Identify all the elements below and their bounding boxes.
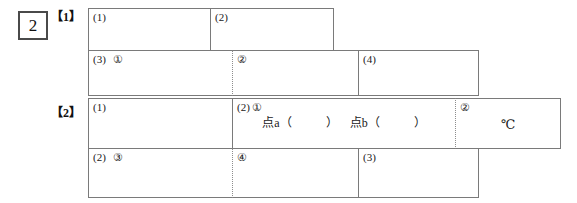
answer-cell-3-3-subnumber: ② [460,101,470,113]
answer-sheet: 2 【1】 【2】 (1) (2) (3)① ② (4) (1) (2)① 点a… [0,0,577,203]
answer-cell-4-2[interactable]: ④ [232,148,359,198]
answer-cell-3-2-body: 点a（）点b（） [233,116,455,130]
point-a-close: ） [326,116,338,130]
answer-cell-1-2[interactable]: (2) [210,8,334,51]
answer-cell-4-3[interactable]: (3) [358,148,479,198]
section-label-2: 【2】 [51,107,81,119]
answer-cell-2-3[interactable]: (4) [358,50,479,96]
answer-cell-4-3-tag: (3) [363,151,376,163]
answer-cell-2-1-subnumber: ① [113,53,123,65]
answer-cell-4-1-number: (2) [93,151,106,163]
point-b-close: ） [414,116,426,130]
point-a-label: 点a（ [262,116,291,130]
answer-cell-1-2-tag: (2) [215,11,228,23]
answer-cell-1-1[interactable]: (1) [88,8,211,51]
answer-cell-2-1-number: (3) [93,53,106,65]
answer-cell-4-2-subnumber: ④ [237,151,247,163]
temperature-unit-label: ℃ [456,117,560,133]
answer-cell-2-1-tag: (3)① [93,53,123,65]
answer-cell-4-1-tag: (2)③ [93,151,123,163]
section-label-1: 【1】 [51,11,81,23]
point-b-label: 点b（ [350,116,380,130]
answer-cell-3-2-subnumber: ① [252,101,262,113]
question-number-box: 2 [18,11,48,40]
question-number-text: 2 [29,17,38,34]
answer-cell-3-2-tag: (2)① [237,101,262,113]
answer-cell-2-2[interactable]: ② [232,50,359,96]
answer-cell-3-1[interactable]: (1) [88,98,233,149]
answer-cell-4-1-subnumber: ③ [113,151,123,163]
answer-cell-3-2[interactable]: (2)① 点a（）点b（） [232,98,456,149]
answer-cell-2-2-tag: ② [237,53,247,65]
answer-cell-3-2-number: (2) [237,101,250,113]
answer-cell-2-3-tag: (4) [363,53,376,65]
answer-cell-3-1-tag: (1) [93,101,106,113]
answer-cell-4-1[interactable]: (2)③ [88,148,233,198]
answer-cell-3-3-tag: ② [460,101,470,113]
answer-cell-1-1-tag: (1) [93,11,106,23]
answer-cell-2-1[interactable]: (3)① [88,50,233,96]
answer-cell-2-2-subnumber: ② [237,53,247,65]
answer-cell-4-2-tag: ④ [237,151,247,163]
answer-cell-3-3[interactable]: ② ℃ [455,98,561,149]
